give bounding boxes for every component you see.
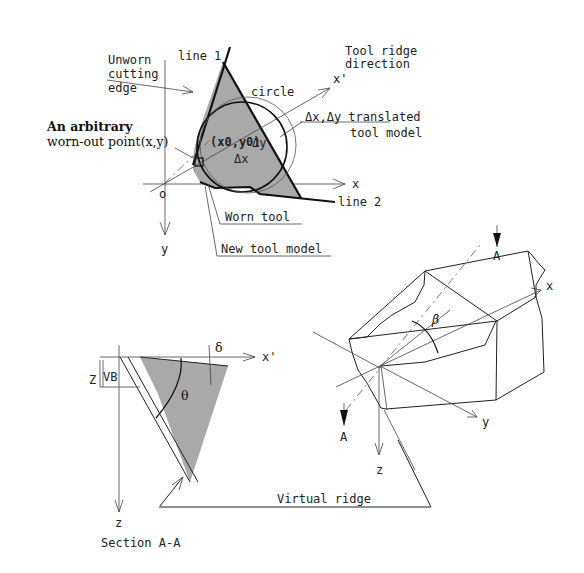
label-circle: circle	[251, 85, 294, 99]
iso-vertical-edge	[381, 366, 387, 410]
label-iso-y: y	[482, 415, 489, 429]
label-x-axis: x	[352, 177, 359, 191]
label-cutting: cutting	[108, 67, 159, 81]
label-section-title: Section A-A	[101, 536, 181, 550]
virtual-ridge-left	[160, 477, 183, 506]
tool-wear-diagram: Unworn cutting edge line 1 circle Tool r…	[0, 0, 584, 573]
label-y-axis: y	[161, 242, 168, 256]
label-tool-model: tool model	[350, 126, 422, 140]
iso-x-line	[380, 290, 541, 366]
label-arbitrary: An arbitrary	[46, 119, 133, 134]
label-delta-y: Δy	[252, 136, 266, 150]
label-section-x-prime: x'	[262, 350, 276, 364]
label-a-bottom: A	[340, 430, 348, 444]
tool-break-line	[528, 251, 545, 297]
label-section-z: z	[115, 516, 122, 530]
label-translated: Δx,Δy translated	[305, 110, 421, 124]
label-beta: β	[431, 312, 439, 327]
virtual-ridge-right	[398, 440, 431, 507]
tool-top-face	[349, 251, 536, 339]
label-new-tool-model: New tool model	[221, 242, 322, 256]
section-arrow-bottom-icon	[340, 410, 348, 426]
label-direction: direction	[345, 57, 410, 71]
label-vb: VB	[103, 370, 117, 384]
label-origin: o	[159, 187, 166, 201]
worn-point-leader	[175, 148, 197, 160]
label-a-top: A	[493, 249, 501, 263]
worn-tool-leader	[208, 184, 220, 224]
label-x-prime: x'	[333, 72, 347, 86]
label-unworn: Unworn	[108, 53, 151, 67]
label-line1: line 1	[178, 49, 221, 63]
iso-ridge-line	[313, 332, 380, 368]
label-theta: θ	[181, 388, 189, 403]
label-iso-z: z	[376, 463, 383, 477]
section-arrow-top-icon	[493, 233, 501, 247]
iso-virtual-ridge-line	[384, 410, 415, 470]
label-worn-tool: Worn tool	[225, 210, 290, 224]
label-z-dim: Z	[89, 373, 96, 387]
top-view: Unworn cutting edge line 1 circle Tool r…	[46, 44, 422, 256]
section-view: Z VB δ θ x' z Section A-A	[89, 340, 276, 550]
iso-section-line	[346, 245, 480, 410]
tool-bottom-edge	[349, 339, 496, 409]
iso-view: A A x y z β	[313, 225, 553, 477]
label-delta: δ	[215, 340, 223, 355]
label-delta-x: Δx	[234, 152, 248, 166]
label-edge: edge	[108, 81, 137, 95]
new-tool-leader	[205, 186, 217, 256]
label-worn-out-point: worn-out point(x,y)	[47, 134, 168, 149]
tool-body-edges	[425, 271, 544, 400]
label-line2: line 2	[338, 195, 381, 209]
label-tool-ridge: Tool ridge	[345, 44, 417, 58]
label-iso-x: x	[546, 279, 553, 293]
leader-arrow-icon	[182, 86, 193, 94]
section-shape	[140, 357, 228, 482]
iso-y-line	[380, 366, 477, 417]
label-virtual-ridge: Virtual ridge	[277, 492, 371, 506]
